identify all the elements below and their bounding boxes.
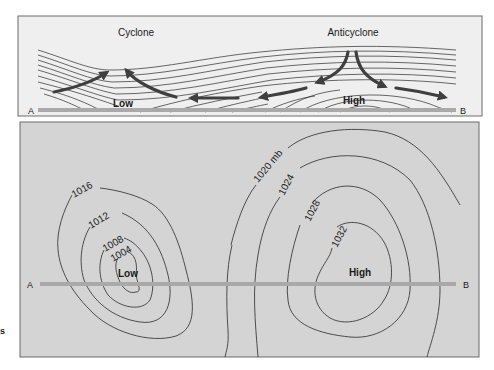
anticyclone-label: Anticyclone: [327, 27, 379, 38]
high-label-map: High: [349, 267, 371, 278]
endpoint-a-map: A: [27, 280, 33, 290]
endpoint-b-map: B: [463, 280, 469, 290]
low-label-top: Low: [113, 98, 133, 109]
cyclone-label: Cyclone: [118, 27, 155, 38]
high-label-top: High: [343, 95, 365, 106]
map-view-panel: 1016 1012 1008 1004 1020 mb 1024 1028 10…: [20, 122, 479, 357]
low-label-map: Low: [118, 268, 138, 279]
cyclone-anticyclone-diagram: Cyclone Anticyclone Low High A B 1016: [0, 0, 494, 370]
endpoint-a-top: A: [28, 106, 34, 116]
margin-text-fragment: s: [0, 326, 5, 336]
endpoint-b-top: B: [460, 106, 466, 116]
cross-section-panel: Cyclone Anticyclone Low High A B: [18, 16, 482, 116]
